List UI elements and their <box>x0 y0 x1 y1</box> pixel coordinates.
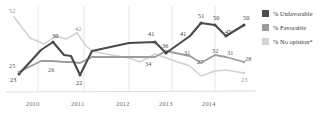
value-label: 42 <box>75 26 81 32</box>
legend-swatch-icon <box>262 24 269 31</box>
value-label: 26 <box>48 67 54 73</box>
legend-item-favorable[interactable]: % Favorable <box>262 20 331 34</box>
legend-swatch-icon <box>262 38 269 45</box>
value-label: 28 <box>245 56 251 62</box>
value-label: 32 <box>212 48 218 54</box>
legend-label: % No opinion* <box>273 38 313 45</box>
plot-area: 23 30 22 41 36 41 51 50 45 50 25 26 34 3… <box>0 0 258 116</box>
legend-label: % Favorable <box>273 24 306 31</box>
value-label: 25 <box>9 63 15 69</box>
value-label: 31 <box>184 50 190 56</box>
value-label: 45 <box>225 29 231 35</box>
value-label: 51 <box>198 13 204 19</box>
value-label: 34 <box>145 61 151 67</box>
x-tick-2012: 2012 <box>116 100 130 107</box>
value-label: 41 <box>180 31 186 37</box>
value-label: 41 <box>148 31 154 37</box>
legend-swatch-icon <box>262 10 269 17</box>
value-label: 30 <box>52 33 58 39</box>
value-label: 23 <box>10 77 16 83</box>
legend-label: % Unfavorable <box>273 10 313 17</box>
value-label: 52 <box>9 8 15 14</box>
legend-item-unfavorable[interactable]: % Unfavorable <box>262 6 331 20</box>
x-tick-2011: 2011 <box>71 100 84 107</box>
x-tick-2014: 2014 <box>202 100 216 107</box>
value-label: 27 <box>197 59 203 65</box>
value-label: 23 <box>241 77 247 83</box>
chart-legend: % Unfavorable % Favorable % No opinion* <box>262 6 331 48</box>
value-label: 36 <box>162 43 168 49</box>
chart-container: 23 30 22 41 36 41 51 50 45 50 25 26 34 3… <box>0 0 331 116</box>
value-label: 22 <box>76 80 82 86</box>
x-tick-2013: 2013 <box>159 100 173 107</box>
value-label: 31 <box>227 50 233 56</box>
x-tick-2010: 2010 <box>26 100 40 107</box>
legend-item-no-opinion[interactable]: % No opinion* <box>262 34 331 48</box>
x-axis-line <box>6 91 256 92</box>
value-label: 50 <box>243 15 249 21</box>
value-label: 50 <box>213 15 219 21</box>
